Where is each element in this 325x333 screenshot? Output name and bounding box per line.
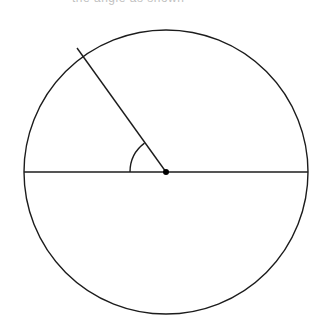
geometry-figure: the angle as shown: [0, 0, 325, 333]
circle-diagram-svg: [0, 0, 325, 333]
center-point-marker: [163, 169, 169, 175]
